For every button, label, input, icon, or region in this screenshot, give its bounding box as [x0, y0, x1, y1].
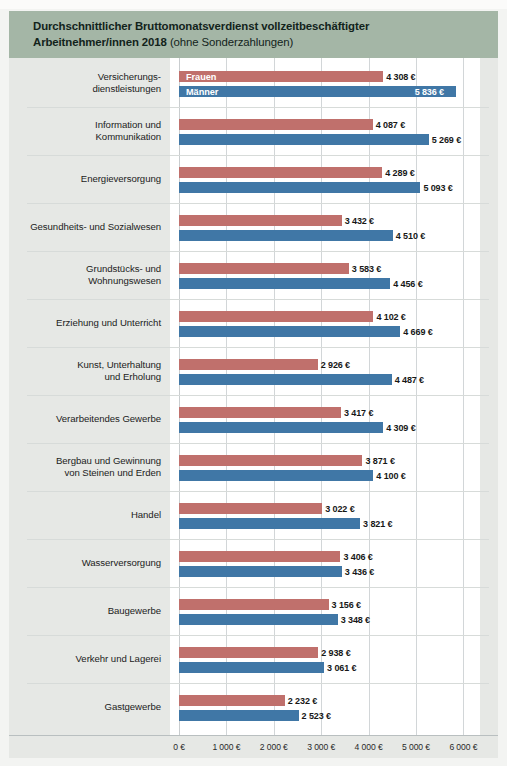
- bar-value-frauen: 2 926 €: [321, 360, 350, 370]
- category-label-line: Gesundheits- und Sozialwesen: [9, 221, 161, 233]
- x-tick-label-0: 0 €: [173, 742, 185, 752]
- bar-value-maenner: 3 348 €: [341, 615, 370, 625]
- bar-maenner: [179, 710, 299, 721]
- legend-frauen: Frauen: [186, 72, 216, 82]
- bar-maenner: [179, 326, 400, 337]
- bar-frauen: [179, 695, 285, 706]
- bar-frauen: [179, 359, 318, 370]
- bar-value-frauen: 4 102 €: [376, 312, 405, 322]
- page-title: Durchschnittlicher Bruttomonatsverdienst…: [33, 19, 483, 50]
- bar-value-maenner: 4 100 €: [376, 471, 405, 481]
- bar-row: Versicherungs-dienstleistungenFrauen4 30…: [9, 59, 498, 107]
- row-separator: [27, 587, 489, 588]
- category-label-line: Gastgewerbe: [9, 701, 161, 713]
- row-separator: [27, 251, 489, 252]
- category-label-line: Kommunikation: [9, 131, 161, 143]
- category-label-line: Wasserversorgung: [9, 557, 161, 569]
- category-label: Energieversorgung: [9, 173, 161, 185]
- bar-maenner: [179, 182, 420, 193]
- category-label-line: von Steinen und Erden: [9, 467, 161, 479]
- bar-frauen: [179, 119, 373, 130]
- bar-row: Grundstücks- undWohnungswesen3 583 €4 45…: [9, 251, 498, 299]
- page-title-line1: Durchschnittlicher Bruttomonatsverdienst…: [33, 20, 369, 32]
- bar-frauen: [179, 647, 318, 658]
- category-label: Information undKommunikation: [9, 119, 161, 142]
- bar-maenner: [179, 422, 383, 433]
- chart-frame: Versicherungs-dienstleistungenFrauen4 30…: [9, 58, 498, 758]
- bar-maenner: [179, 230, 393, 241]
- row-separator: [27, 539, 489, 540]
- category-label-line: Information und: [9, 119, 161, 131]
- bar-row: Energieversorgung4 289 €5 093 €: [9, 155, 498, 203]
- bar-maenner: [179, 662, 324, 673]
- bar-value-frauen: 3 417 €: [344, 408, 373, 418]
- bar-value-frauen: 3 871 €: [365, 456, 394, 466]
- row-separator: [27, 683, 489, 684]
- category-label: Grundstücks- undWohnungswesen: [9, 263, 161, 286]
- category-label-line: Bergbau und Gewinnung: [9, 455, 161, 467]
- category-label: Handel: [9, 509, 161, 521]
- category-label-line: Versicherungs-: [9, 71, 161, 83]
- bar-value-maenner: 5 269 €: [432, 135, 461, 145]
- bar-row: Verarbeitendes Gewerbe3 417 €4 309 €: [9, 395, 498, 443]
- category-label-line: Verarbeitendes Gewerbe: [9, 413, 161, 425]
- bar-maenner: [179, 134, 429, 145]
- row-separator: [27, 395, 489, 396]
- category-label: Kunst, Unterhaltungund Erholung: [9, 359, 161, 382]
- category-label: Verkehr und Lagerei: [9, 653, 161, 665]
- bar-value-maenner: 3 436 €: [345, 567, 374, 577]
- category-label: Verarbeitendes Gewerbe: [9, 413, 161, 425]
- x-tick-label-2000: 2 000 €: [260, 742, 288, 752]
- bar-frauen: [179, 311, 373, 322]
- row-separator: [27, 443, 489, 444]
- page-title-line2: Arbeitnehmer/innen 2018: [33, 36, 167, 48]
- bar-row: Verkehr und Lagerei2 938 €3 061 €: [9, 635, 498, 683]
- bar-maenner: [179, 278, 390, 289]
- bar-value-frauen: 3 022 €: [325, 504, 354, 514]
- bar-value-frauen: 3 432 €: [345, 216, 374, 226]
- bar-value-maenner: 3 821 €: [363, 519, 392, 529]
- bar-value-maenner: 5 093 €: [423, 183, 452, 193]
- x-axis: 0 €1 000 €2 000 €3 000 €4 000 €5 000 €6 …: [9, 735, 498, 758]
- bar-frauen: Frauen: [179, 71, 383, 82]
- bar-frauen: [179, 551, 340, 562]
- x-tick-label-5000: 5 000 €: [402, 742, 430, 752]
- category-label-line: Erziehung und Unterricht: [9, 317, 161, 329]
- bar-value-maenner: 4 456 €: [393, 279, 422, 289]
- bar-row: Gesundheits- und Sozialwesen3 432 €4 510…: [9, 203, 498, 251]
- row-separator: [27, 635, 489, 636]
- header-band: Durchschnittlicher Bruttomonatsverdienst…: [9, 11, 498, 58]
- category-label-line: dienstleistungen: [9, 83, 161, 95]
- bar-frauen: [179, 263, 349, 274]
- bar-value-maenner: 5 836 €: [415, 87, 444, 97]
- bar-row: Information undKommunikation4 087 €5 269…: [9, 107, 498, 155]
- row-separator: [27, 491, 489, 492]
- category-label-line: Baugewerbe: [9, 605, 161, 617]
- bar-row: Wasserversorgung3 406 €3 436 €: [9, 539, 498, 587]
- bar-frauen: [179, 407, 341, 418]
- bar-frauen: [179, 455, 362, 466]
- bar-frauen: [179, 167, 382, 178]
- category-label-line: Energieversorgung: [9, 173, 161, 185]
- bar-value-maenner: 4 669 €: [403, 327, 432, 337]
- bar-row: Kunst, Unterhaltungund Erholung2 926 €4 …: [9, 347, 498, 395]
- category-label: Erziehung und Unterricht: [9, 317, 161, 329]
- x-tick-label-4000: 4 000 €: [355, 742, 383, 752]
- bar-value-frauen: 4 308 €: [386, 72, 415, 82]
- bar-value-maenner: 3 061 €: [327, 663, 356, 673]
- category-label: Gesundheits- und Sozialwesen: [9, 221, 161, 233]
- bar-value-maenner: 4 309 €: [386, 423, 415, 433]
- row-separator: [27, 299, 489, 300]
- category-label-line: Kunst, Unterhaltung: [9, 359, 161, 371]
- bar-value-frauen: 2 938 €: [321, 648, 350, 658]
- bar-maenner: [179, 614, 338, 625]
- row-separator: [27, 203, 489, 204]
- category-label-line: Verkehr und Lagerei: [9, 653, 161, 665]
- category-label: Baugewerbe: [9, 605, 161, 617]
- category-label-line: Handel: [9, 509, 161, 521]
- bar-row: Gastgewerbe2 232 €2 523 €: [9, 683, 498, 731]
- legend-maenner: Männer: [186, 87, 218, 97]
- x-tick-label-3000: 3 000 €: [307, 742, 335, 752]
- category-label-line: und Erholung: [9, 371, 161, 383]
- bar-value-maenner: 4 487 €: [395, 375, 424, 385]
